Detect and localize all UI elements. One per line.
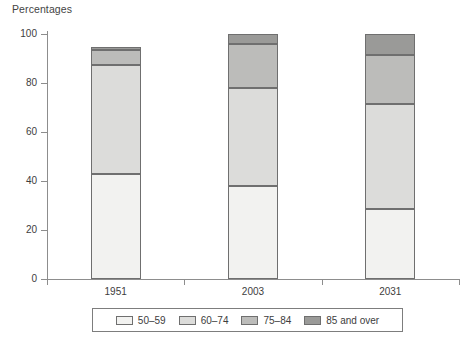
bar-segment [365,34,415,55]
y-axis-tick-label: 0 [0,273,37,284]
stacked-bar [228,34,278,279]
bar-segment [365,104,415,209]
legend-item: 60–74 [179,315,229,326]
bar-segment [228,186,278,279]
x-axis-tick [184,279,185,285]
legend-item: 85 and over [304,315,379,326]
x-axis-category-label: 2031 [322,286,459,297]
y-axis-tick-label: 100 [0,28,37,39]
y-axis-tick-label: 40 [0,175,37,186]
legend-item: 75–84 [241,315,291,326]
bar-segment [365,209,415,279]
plot-area [47,34,459,279]
legend-swatch [116,316,133,325]
x-axis-category-label: 1951 [47,286,184,297]
bar-segment [91,50,141,65]
x-axis-line [47,279,460,280]
chart-title: Percentages [12,3,72,15]
x-axis-tick [47,279,48,285]
stacked-bar [91,34,141,279]
bar-segment [91,174,141,279]
legend-label: 75–84 [263,315,291,326]
bar-segment [91,65,141,174]
legend-swatch [179,316,196,325]
stacked-bar [365,34,415,279]
x-axis-tick [322,279,323,285]
bar-segment [228,88,278,186]
bar-segment [228,34,278,44]
legend-item: 50–59 [116,315,166,326]
legend-swatch [241,316,258,325]
x-axis-category-label: 2003 [184,286,321,297]
x-axis-tick [459,279,460,285]
bar-segment [91,47,141,50]
legend-label: 60–74 [201,315,229,326]
legend-label: 50–59 [138,315,166,326]
legend-label: 85 and over [326,315,379,326]
bar-segment [228,44,278,88]
bar-segment [365,55,415,104]
y-axis-tick-label: 20 [0,224,37,235]
y-axis-tick-label: 80 [0,77,37,88]
chart-legend: 50–5960–7475–8485 and over [92,308,403,332]
legend-swatch [304,316,321,325]
y-axis-tick-label: 60 [0,126,37,137]
